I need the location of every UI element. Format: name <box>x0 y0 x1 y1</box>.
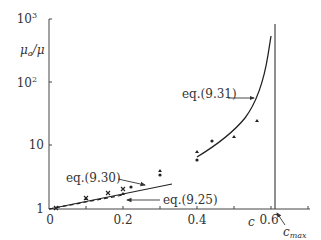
annotation-eq-9-31: eq.(9.31) <box>182 87 237 101</box>
x-tick-0.6: 0.6 <box>259 213 278 227</box>
y-tick-10: 10 <box>29 138 44 152</box>
y-tick-labels: 103 102 10 1 <box>17 11 44 216</box>
y-tick-100: 102 <box>17 75 37 90</box>
annotation-eq-9-25: eq.(9.25) <box>163 193 218 207</box>
annotation-arrow-9-30 <box>118 179 145 185</box>
x-axis-label: c <box>248 215 255 229</box>
eq-9-30-line <box>49 184 172 209</box>
y-tick-1000: 103 <box>17 11 37 26</box>
chart: 103 102 10 1 μa/μ 0 0.2 0.4 0.6 c cmax <box>0 0 321 240</box>
x-tick-0.2: 0.2 <box>113 213 132 227</box>
dot-markers <box>129 139 213 188</box>
annotation-eq-9-30: eq.(9.30) <box>66 171 121 185</box>
x-tick-0: 0 <box>46 213 54 227</box>
x-tick-0.4: 0.4 <box>187 213 206 227</box>
y-tick-1: 1 <box>36 202 44 216</box>
y-axis-label: μa/μ <box>20 43 45 58</box>
x-tick-labels: 0 0.2 0.4 0.6 <box>46 213 278 227</box>
cmax-label: cmax <box>283 225 307 240</box>
